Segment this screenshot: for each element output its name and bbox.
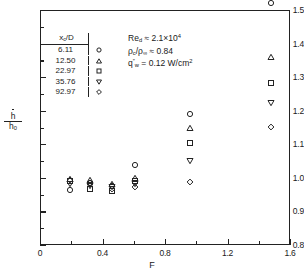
legend-row-value: 12.50 bbox=[45, 56, 89, 65]
data-point-triangle-up bbox=[187, 124, 194, 131]
legend-marker-square bbox=[89, 68, 109, 74]
data-point-square bbox=[268, 79, 275, 86]
legend-header: xc/D bbox=[45, 33, 109, 45]
parameter-annotations: Red ≈ 2.1×104 ρc/ρ∞ ≈ 0.84 q″w = 0.12 W/… bbox=[128, 32, 193, 70]
y-tick-label: 1.4 bbox=[270, 39, 304, 49]
y-tick-label: 1.3 bbox=[270, 72, 304, 82]
legend-header-label: xc/D bbox=[45, 33, 89, 45]
legend-rows: 6.1112.5022.9735.7692.97 bbox=[45, 45, 109, 98]
data-point-triangle-up bbox=[268, 54, 275, 61]
annotation-heat-flux: q″w = 0.12 W/cm2 bbox=[128, 57, 193, 70]
y-tick bbox=[40, 144, 46, 145]
y-minor-tick bbox=[40, 27, 44, 28]
legend-row: 92.97 bbox=[45, 87, 109, 98]
y-tick bbox=[40, 111, 46, 112]
data-point-diamond bbox=[108, 185, 115, 192]
x-minor-tick bbox=[196, 241, 197, 245]
legend-row: 35.76 bbox=[45, 76, 109, 87]
x-tick bbox=[40, 239, 41, 245]
x-tick-label: 0.8 bbox=[159, 248, 170, 258]
x-tick bbox=[165, 239, 166, 245]
x-tick bbox=[290, 239, 291, 245]
data-point-circle bbox=[187, 111, 194, 118]
legend-row-value: 22.97 bbox=[45, 66, 89, 75]
data-point-diamond bbox=[268, 123, 275, 130]
y-tick bbox=[40, 178, 46, 179]
legend-row: 12.50 bbox=[45, 55, 109, 66]
x-minor-tick bbox=[71, 241, 72, 245]
data-point-triangle-down bbox=[268, 100, 275, 107]
annotation-reynolds: Red ≈ 2.1×104 bbox=[128, 32, 193, 45]
x-tick-label: 0 bbox=[38, 248, 43, 258]
x-tick-label: 0.4 bbox=[97, 248, 108, 258]
y-tick bbox=[40, 211, 46, 212]
y-tick-label: 1.1 bbox=[270, 139, 304, 149]
legend-row-value: 35.76 bbox=[45, 77, 89, 86]
y-tick bbox=[40, 10, 46, 11]
y-tick-label: 0.9 bbox=[270, 206, 304, 216]
y-tick-label: 1.0 bbox=[270, 173, 304, 183]
x-axis-title: F bbox=[0, 260, 304, 270]
x-tick-label: 1.6 bbox=[284, 248, 295, 258]
legend: xc/D 6.1112.5022.9735.7692.97 bbox=[45, 33, 109, 97]
y-axis-numerator: h bbox=[11, 111, 16, 121]
y-minor-tick bbox=[40, 128, 44, 129]
annotation-density-ratio: ρc/ρ∞ ≈ 0.84 bbox=[128, 45, 193, 58]
data-point-diamond bbox=[132, 184, 139, 191]
legend-row-value: 92.97 bbox=[45, 87, 89, 96]
y-axis-denominator-sub: 0 bbox=[14, 125, 17, 131]
y-minor-tick bbox=[40, 161, 44, 162]
data-point-circle bbox=[268, 0, 275, 7]
x-tick bbox=[228, 239, 229, 245]
y-tick-label: 1.5 bbox=[270, 5, 304, 15]
y-tick-label: 1.2 bbox=[270, 106, 304, 116]
data-point-diamond bbox=[87, 179, 94, 186]
figure-container: 0.80.91.01.11.21.31.41.500.40.81.21.6 h … bbox=[0, 0, 304, 274]
y-minor-tick bbox=[40, 94, 44, 95]
legend-row: 6.11 bbox=[45, 45, 109, 56]
data-point-circle bbox=[132, 162, 139, 169]
x-tick bbox=[103, 239, 104, 245]
y-minor-tick bbox=[40, 228, 44, 229]
data-point-square bbox=[187, 139, 194, 146]
data-point-diamond bbox=[66, 177, 73, 184]
legend-row-value: 6.11 bbox=[45, 45, 89, 54]
y-minor-tick bbox=[40, 195, 44, 196]
y-minor-tick bbox=[40, 60, 44, 61]
y-axis-title: h h0 bbox=[4, 112, 22, 132]
legend-marker-circle bbox=[89, 47, 109, 53]
legend-marker-triangle-up bbox=[89, 58, 109, 64]
x-minor-tick bbox=[134, 241, 135, 245]
legend-row: 22.97 bbox=[45, 66, 109, 77]
x-tick-label: 1.2 bbox=[222, 248, 233, 258]
x-minor-tick bbox=[259, 241, 260, 245]
y-tick bbox=[40, 245, 46, 246]
data-point-diamond bbox=[187, 178, 194, 185]
data-point-triangle-down bbox=[187, 158, 194, 165]
legend-marker-diamond bbox=[89, 89, 109, 95]
legend-marker-triangle-down bbox=[89, 79, 109, 85]
